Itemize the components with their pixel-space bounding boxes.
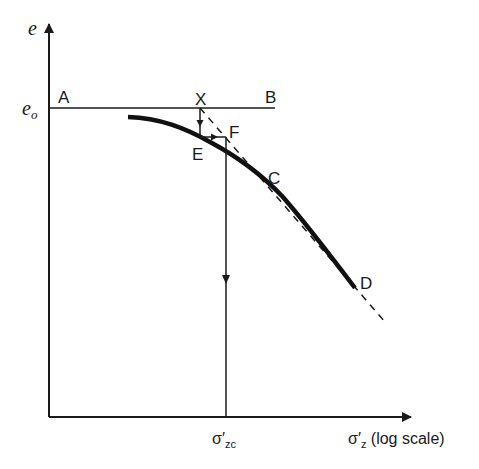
x-axis-label-main: σ′ [348,430,361,447]
point-a-label: A [58,89,69,106]
sigma-zc-label: σ′zc [212,431,236,447]
sigma-zc-sub: zc [225,438,236,450]
point-b-label: B [265,89,276,106]
x-axis-label: σ′z (log scale) [348,431,445,447]
point-f-label: F [229,124,239,141]
y-axis-label: e [28,18,37,38]
sigma-zc-main: σ′ [212,430,225,447]
eo-label-main: e [22,97,31,119]
f-to-sigma-zc-arrowhead [222,275,230,284]
point-d-label: D [360,275,372,292]
e-to-f-arrowhead [211,134,218,141]
x-axis-label-sub: z [361,438,367,450]
eo-label-sub: o [31,107,38,122]
x-to-e-arrowhead [197,120,204,127]
point-x-label: X [195,91,206,108]
dashed-tangent-line [200,108,385,322]
x-axis-label-suffix: (log scale) [366,430,444,447]
consolidation-curve [128,117,355,288]
eo-label: eo [22,98,37,118]
point-c-label: C [268,170,280,187]
consolidation-diagram [0,0,479,469]
point-e-label: E [192,146,203,163]
